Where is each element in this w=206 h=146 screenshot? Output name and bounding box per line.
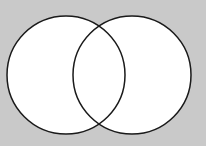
venn-diagram [0, 0, 206, 146]
